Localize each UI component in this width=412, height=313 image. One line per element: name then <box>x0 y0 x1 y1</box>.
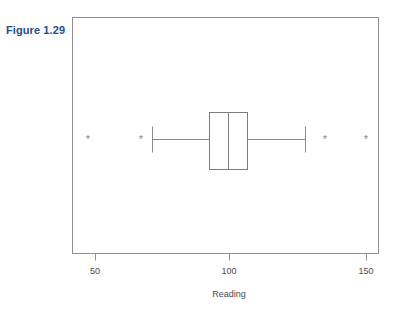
outlier-marker-icon: * <box>139 133 144 145</box>
x-axis-title: Reading <box>212 289 246 299</box>
x-tick-label-2: 150 <box>358 266 373 276</box>
x-tick-label-0: 50 <box>90 266 100 276</box>
x-axis-ticks <box>96 254 367 261</box>
x-tick-label-1: 100 <box>221 266 236 276</box>
outlier-marker-icon: * <box>86 133 91 145</box>
boxplot-chart: 50 100 150 Reading * * * * <box>0 0 412 313</box>
outlier-marker-icon: * <box>323 133 328 145</box>
figure-container: Figure 1.29 50 100 150 Reading * <box>0 0 412 313</box>
outlier-marker-icon: * <box>364 133 369 145</box>
